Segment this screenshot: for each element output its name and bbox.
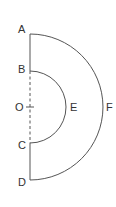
label-d: D (18, 176, 26, 188)
label-b: B (18, 63, 25, 75)
semicircle-diagram: A B O C D E F (0, 0, 116, 207)
label-a: A (18, 23, 26, 35)
label-f: F (106, 101, 113, 113)
label-c: C (18, 139, 26, 151)
label-e: E (70, 101, 77, 113)
label-o: O (15, 101, 24, 113)
inner-semicircle-arc (30, 71, 66, 143)
